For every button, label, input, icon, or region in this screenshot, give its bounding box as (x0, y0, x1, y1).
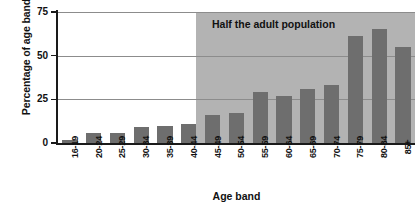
bar-series (58, 12, 415, 143)
x-tick: 80-84 (367, 147, 391, 189)
bar-slot (58, 12, 82, 143)
bar-slot (225, 12, 249, 143)
annotation-half-adult-population: Half the adult population (212, 18, 335, 30)
bar-slot (344, 12, 368, 143)
bar-slot (129, 12, 153, 143)
x-tick-label: 55-59 (260, 136, 270, 158)
x-tick: 16-19 (58, 147, 82, 189)
x-tick-label: 40-44 (189, 136, 199, 158)
x-tick-label: 80-84 (379, 136, 389, 158)
bar-75-79 (348, 36, 363, 143)
x-tick-label: 45-49 (213, 136, 223, 158)
x-tick-label: 25-29 (117, 136, 127, 158)
bar-slot (248, 12, 272, 143)
bar-slot (272, 12, 296, 143)
x-axis-tick-labels: 16-1920-2425-2930-3435-3940-4445-4950-54… (58, 147, 415, 189)
bar-slot (367, 12, 391, 143)
y-tick-label: 0 (8, 137, 48, 148)
x-tick: 35-39 (153, 147, 177, 189)
x-tick: 65-69 (296, 147, 320, 189)
bar-85+ (395, 47, 410, 143)
bar-70-74 (324, 85, 339, 143)
y-tick-label: 25 (8, 93, 48, 104)
y-tick-mark (51, 99, 57, 101)
bar-slot (320, 12, 344, 143)
x-tick-label: 60-64 (284, 136, 294, 158)
bar-slot (391, 12, 415, 143)
x-tick-label: 65-69 (308, 136, 318, 158)
x-tick: 50-54 (225, 147, 249, 189)
x-tick: 85+ (391, 147, 415, 189)
bar-slot (296, 12, 320, 143)
x-tick-label: 70-74 (332, 136, 342, 158)
x-tick-label: 75-79 (355, 136, 365, 158)
y-axis-line (56, 10, 58, 145)
x-tick-label: 85+ (403, 140, 413, 155)
plot-area (58, 12, 415, 143)
bar-slot (201, 12, 225, 143)
bar-slot (82, 12, 106, 143)
x-tick: 75-79 (344, 147, 368, 189)
y-tick-mark (51, 55, 57, 57)
bar-80-84 (372, 29, 387, 143)
y-tick-label: 50 (8, 50, 48, 61)
x-tick-label: 30-34 (141, 136, 151, 158)
y-tick-mark (51, 11, 57, 13)
x-tick: 55-59 (248, 147, 272, 189)
y-tick-mark (51, 142, 57, 144)
y-axis-title: Percentage of age band (20, 0, 32, 127)
bar-slot (106, 12, 130, 143)
x-tick: 45-49 (201, 147, 225, 189)
x-tick-label: 35-39 (165, 136, 175, 158)
x-tick: 60-64 (272, 147, 296, 189)
bar-65-69 (300, 89, 315, 143)
bar-chart-figure: Percentage of age band 0255075 Half the … (0, 0, 418, 208)
x-tick: 40-44 (177, 147, 201, 189)
bar-slot (177, 12, 201, 143)
x-tick-label: 20-24 (94, 136, 104, 158)
x-tick: 30-34 (129, 147, 153, 189)
bar-slot (153, 12, 177, 143)
x-tick-label: 50-54 (236, 136, 246, 158)
x-tick: 70-74 (320, 147, 344, 189)
x-tick: 20-24 (82, 147, 106, 189)
x-tick-label: 16-19 (70, 136, 80, 158)
x-tick: 25-29 (106, 147, 130, 189)
x-axis-title: Age band (58, 190, 415, 202)
y-tick-label: 75 (8, 6, 48, 17)
